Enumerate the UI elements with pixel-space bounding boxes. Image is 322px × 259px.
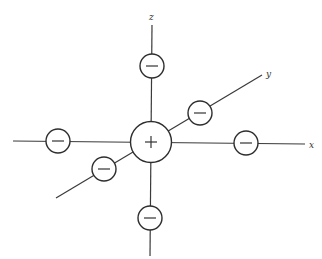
ligand-upper-right	[188, 101, 212, 125]
central-cation	[131, 122, 172, 163]
y-axis-label: y	[265, 69, 272, 79]
ligand-top	[140, 54, 164, 78]
octahedral-diagram: z y x	[0, 0, 322, 259]
ligand-right	[234, 131, 258, 155]
ligand-left	[46, 129, 70, 153]
ligand-lower-left	[92, 157, 116, 181]
ligand-bottom	[138, 206, 162, 230]
z-axis-label: z	[148, 12, 154, 22]
x-axis-label: x	[309, 140, 314, 150]
